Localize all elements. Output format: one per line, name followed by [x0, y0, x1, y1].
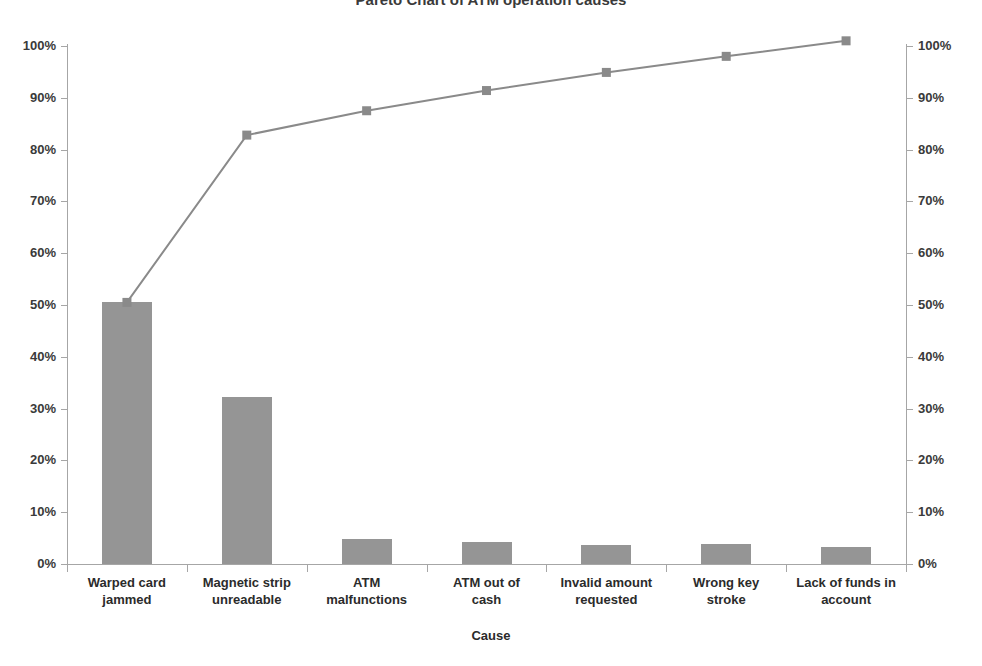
x-axis-tick — [67, 565, 68, 572]
y-axis-left-tick-label: 90% — [30, 91, 56, 104]
x-axis-category-label-line: Magnetic strip — [187, 574, 307, 591]
x-axis-category-label-line: requested — [546, 591, 666, 608]
x-axis-category-label: Lack of funds inaccount — [786, 574, 906, 608]
x-axis-category-label: ATMmalfunctions — [307, 574, 427, 608]
y-axis-right-tick-label: 80% — [918, 143, 944, 156]
x-axis-tick — [427, 565, 428, 572]
x-axis-category-label-line: ATM out of — [427, 574, 547, 591]
bar — [102, 302, 152, 564]
cumulative-line-marker — [842, 36, 851, 45]
x-axis-tick — [906, 565, 907, 572]
y-axis-right-tick — [907, 150, 913, 151]
x-axis-category-label-line: malfunctions — [307, 591, 427, 608]
y-axis-right-tick-label: 100% — [918, 39, 951, 52]
x-axis-category-label-line: account — [786, 591, 906, 608]
y-axis-right-tick-label: 20% — [918, 453, 944, 466]
x-axis-category-label: Invalid amountrequested — [546, 574, 666, 608]
y-axis-left-tick-label: 20% — [30, 453, 56, 466]
x-axis-category-label-line: ATM — [307, 574, 427, 591]
bar — [342, 539, 392, 564]
y-axis-right-tick — [907, 46, 913, 47]
y-axis-left-tick-label: 40% — [30, 350, 56, 363]
y-axis-left-tick-label: 70% — [30, 194, 56, 207]
y-axis-right-tick — [907, 253, 913, 254]
y-axis-right-tick-label: 70% — [918, 194, 944, 207]
y-axis-right-tick — [907, 564, 913, 565]
y-axis-right-tick-label: 60% — [918, 246, 944, 259]
y-axis-left-tick-label: 80% — [30, 143, 56, 156]
pareto-chart: Pareto Chart of ATM operation causes 100… — [0, 0, 982, 666]
chart-title: Pareto Chart of ATM operation causes — [0, 0, 982, 8]
bar — [462, 542, 512, 564]
x-axis-category-label-line: Invalid amount — [546, 574, 666, 591]
y-axis-left-tick-label: 0% — [37, 557, 56, 570]
x-axis-category-label: Magnetic stripunreadable — [187, 574, 307, 608]
x-axis-category-label-line: Warped card — [67, 574, 187, 591]
y-axis-left-tick-label: 60% — [30, 246, 56, 259]
y-axis-right-tick-label: 50% — [918, 298, 944, 311]
plot-area — [67, 46, 906, 564]
x-axis-category-label-line: unreadable — [187, 591, 307, 608]
y-axis-left-tick-label: 50% — [30, 298, 56, 311]
y-axis-right-tick — [907, 305, 913, 306]
y-axis-right-tick-label: 0% — [918, 557, 937, 570]
x-axis-tick — [307, 565, 308, 572]
x-axis-category-label-line: cash — [427, 591, 547, 608]
x-axis-tick — [546, 565, 547, 572]
x-axis-tick — [786, 565, 787, 572]
x-axis-tick — [666, 565, 667, 572]
y-axis-right-tick-label: 30% — [918, 402, 944, 415]
x-axis-category-label: Warped cardjammed — [67, 574, 187, 608]
y-axis-left-tick-label: 10% — [30, 505, 56, 518]
bar — [701, 544, 751, 564]
y-axis-right-tick-label: 40% — [918, 350, 944, 363]
x-axis-tick — [187, 565, 188, 572]
y-axis-left-tick-label: 30% — [30, 402, 56, 415]
bar — [821, 547, 871, 564]
x-axis-category-label-line: jammed — [67, 591, 187, 608]
x-axis-category-label-line: stroke — [666, 591, 786, 608]
x-axis-category-label-line: Wrong key — [666, 574, 786, 591]
y-axis-right-tick-label: 10% — [918, 505, 944, 518]
x-axis-line — [67, 564, 907, 565]
y-axis-right-tick — [907, 357, 913, 358]
y-axis-right-tick — [907, 512, 913, 513]
y-axis-right-tick — [907, 201, 913, 202]
y-axis-right-tick — [907, 98, 913, 99]
x-axis-category-label: ATM out ofcash — [427, 574, 547, 608]
x-axis-category-label-line: Lack of funds in — [786, 574, 906, 591]
bar — [222, 397, 272, 564]
y-axis-right-tick — [907, 409, 913, 410]
x-axis-category-label: Wrong keystroke — [666, 574, 786, 608]
y-axis-left-tick-label: 100% — [23, 39, 56, 52]
y-axis-right-tick — [907, 460, 913, 461]
x-axis-title: Cause — [0, 628, 982, 643]
bar — [581, 545, 631, 564]
y-axis-right-tick-label: 90% — [918, 91, 944, 104]
